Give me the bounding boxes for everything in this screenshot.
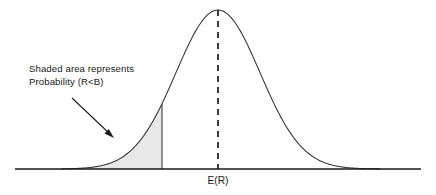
normal-distribution-figure: Shaded area represents Probability (R<B)… xyxy=(0,0,436,195)
distribution-chart-svg: Shaded area represents Probability (R<B)… xyxy=(0,0,436,195)
mean-axis-label: E(R) xyxy=(208,175,229,186)
annotation-line-2: Probability (R<B) xyxy=(29,76,103,87)
annotation-line-1: Shaded area represents xyxy=(29,63,134,74)
